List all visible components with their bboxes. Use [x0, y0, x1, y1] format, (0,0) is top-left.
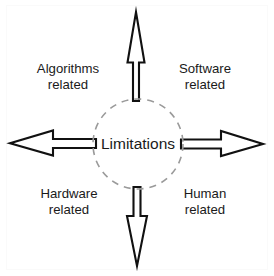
label-software-line2: related	[163, 77, 247, 93]
label-software-line1: Software	[179, 61, 231, 76]
arrow-down-icon	[127, 187, 147, 266]
label-software-related: Software related	[163, 61, 247, 93]
arrow-up-icon	[128, 12, 145, 101]
label-algorithms-line2: related	[22, 77, 114, 93]
label-human-line1: Human	[184, 186, 227, 201]
label-hardware-line2: related	[24, 202, 114, 218]
limitations-radial-diagram: Limitations Algorithms related Software …	[0, 0, 274, 276]
label-hardware-line1: Hardware	[40, 186, 97, 201]
label-algorithms-line1: Algorithms	[37, 61, 99, 76]
hub-label: Limitations	[101, 135, 175, 152]
label-algorithms-related: Algorithms related	[22, 61, 114, 93]
arrow-right-icon	[181, 131, 263, 156]
label-human-related: Human related	[163, 186, 247, 218]
label-human-line2: related	[163, 202, 247, 218]
diagram-canvas: Limitations	[0, 0, 274, 276]
arrow-left-icon	[10, 131, 96, 156]
label-hardware-related: Hardware related	[24, 186, 114, 218]
